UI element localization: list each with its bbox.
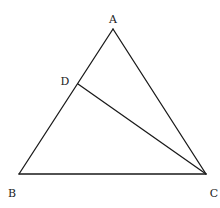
triangle-diagram: A D B C (0, 0, 220, 208)
label-d: D (61, 75, 70, 88)
label-a: A (108, 13, 118, 26)
segment-ab (19, 29, 113, 174)
segment-dc (78, 84, 206, 174)
label-c: C (210, 187, 218, 200)
segment-ca (113, 29, 206, 174)
label-b: B (8, 187, 16, 200)
